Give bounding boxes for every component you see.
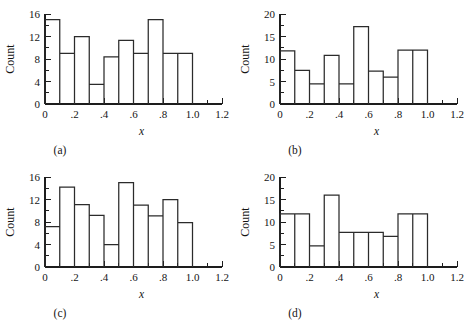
plot-area-c: 0.2.4.6.81.01.20481216xCount(c) — [0, 163, 235, 326]
x-tick-label: 1.2 — [215, 271, 229, 283]
x-tick-label: 1.2 — [215, 108, 229, 120]
histogram-bars — [280, 195, 428, 267]
x-tick-label: .2 — [305, 271, 313, 283]
panel-b: 0.2.4.6.81.01.205101520xCount(b) — [235, 0, 470, 163]
y-tick-label: 15 — [264, 31, 276, 43]
y-axis-title: Count — [238, 44, 252, 74]
y-tick-label: 12 — [29, 194, 40, 206]
histogram-bars — [45, 20, 193, 104]
y-tick-label: 16 — [29, 8, 41, 20]
x-tick-label: .8 — [159, 271, 168, 283]
x-tick-label: 1.0 — [186, 108, 200, 120]
x-tick-label: .4 — [100, 271, 109, 283]
x-tick-label: .8 — [394, 271, 403, 283]
x-tick-label: 1.0 — [186, 271, 200, 283]
x-tick-label: .2 — [305, 108, 313, 120]
x-tick-label: 0 — [42, 271, 48, 283]
x-axis-title: x — [373, 288, 380, 300]
y-tick-label: 20 — [264, 8, 276, 20]
histogram-figure: 0.2.4.6.81.01.20481216xCount(a) 0.2.4.6.… — [0, 0, 470, 327]
y-tick-label: 12 — [29, 31, 40, 43]
x-tick-label: 0 — [277, 108, 283, 120]
panel-a: 0.2.4.6.81.01.20481216xCount(a) — [0, 0, 235, 163]
y-tick-label: 0 — [270, 261, 276, 273]
x-tick-label: 1.0 — [421, 271, 435, 283]
y-tick-label: 8 — [35, 53, 41, 65]
x-tick-label: .8 — [394, 108, 403, 120]
x-tick-label: .2 — [70, 271, 78, 283]
y-axis-title: Count — [238, 207, 252, 237]
x-tick-label: 1.2 — [450, 271, 464, 283]
x-tick-label: 1.0 — [421, 108, 435, 120]
y-tick-label: 10 — [264, 53, 276, 65]
plot-area-b: 0.2.4.6.81.01.205101520xCount(b) — [235, 0, 470, 163]
y-tick-label: 0 — [270, 98, 276, 110]
x-tick-label: .4 — [100, 108, 109, 120]
panel-c: 0.2.4.6.81.01.20481216xCount(c) — [0, 163, 235, 326]
x-tick-label: .8 — [159, 108, 168, 120]
y-tick-label: 8 — [35, 216, 41, 228]
y-tick-label: 5 — [270, 76, 276, 88]
x-tick-label: .4 — [335, 271, 344, 283]
x-tick-label: 0 — [277, 271, 283, 283]
panel-tag: (c) — [54, 307, 67, 320]
plot-area-d: 0.2.4.6.81.01.205101520xCount(d) — [235, 163, 470, 326]
panel-d: 0.2.4.6.81.01.205101520xCount(d) — [235, 163, 470, 326]
panel-tag: (a) — [54, 144, 67, 157]
plot-area-a: 0.2.4.6.81.01.20481216xCount(a) — [0, 0, 235, 163]
y-tick-label: 4 — [35, 239, 41, 251]
x-tick-label: 0 — [42, 108, 48, 120]
histogram-bars — [45, 183, 193, 267]
x-tick-label: .4 — [335, 108, 344, 120]
y-axis-title: Count — [3, 44, 17, 74]
histogram-bars — [280, 27, 428, 104]
x-axis-title: x — [138, 288, 145, 300]
y-tick-label: 10 — [264, 216, 276, 228]
y-tick-label: 20 — [264, 171, 276, 183]
y-tick-label: 5 — [270, 239, 276, 251]
x-axis-title: x — [138, 125, 145, 137]
panel-tag: (b) — [288, 144, 302, 157]
panel-tag: (d) — [288, 307, 302, 320]
x-tick-label: .6 — [364, 271, 373, 283]
y-axis-title: Count — [3, 207, 17, 237]
y-tick-label: 15 — [264, 194, 276, 206]
x-tick-label: 1.2 — [450, 108, 464, 120]
x-tick-label: .6 — [129, 271, 138, 283]
y-tick-label: 4 — [35, 76, 41, 88]
y-tick-label: 16 — [29, 171, 41, 183]
x-tick-label: .6 — [364, 108, 373, 120]
y-tick-label: 0 — [35, 261, 41, 273]
x-tick-label: .2 — [70, 108, 78, 120]
x-tick-label: .6 — [129, 108, 138, 120]
y-tick-label: 0 — [35, 98, 41, 110]
x-axis-title: x — [373, 125, 380, 137]
